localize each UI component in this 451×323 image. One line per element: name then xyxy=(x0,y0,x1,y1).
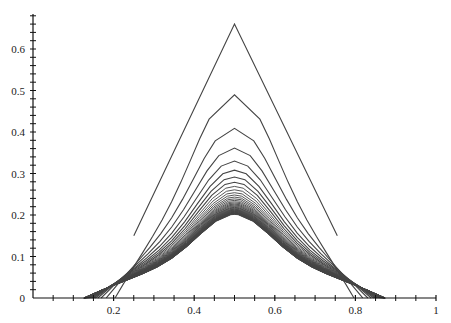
curve-line xyxy=(86,207,384,298)
curve-line xyxy=(86,205,383,298)
curve-line xyxy=(85,211,385,298)
curve-line xyxy=(84,214,385,298)
curve-line xyxy=(84,214,385,298)
curve-line xyxy=(87,202,382,298)
curve-line xyxy=(84,213,385,298)
curve-line xyxy=(84,214,386,298)
curve-line xyxy=(85,209,384,298)
y-tick-label: 0.5 xyxy=(11,85,25,97)
curve-line xyxy=(86,207,384,298)
x-tick-label: 0.2 xyxy=(107,304,121,316)
x-tick-label: 0.8 xyxy=(349,304,363,316)
curve-family xyxy=(84,24,386,298)
curve-line xyxy=(86,206,383,298)
chart: 0.20.40.60.81 00.10.20.30.40.50.6 xyxy=(0,0,451,323)
y-tick-label: 0.4 xyxy=(11,126,25,138)
curve-line xyxy=(84,214,385,298)
curve-line xyxy=(85,209,384,298)
y-tick-label: 0.1 xyxy=(11,251,25,263)
curve-line xyxy=(86,204,382,298)
curve-line xyxy=(92,182,377,298)
x-tick-label: 0.4 xyxy=(187,304,201,316)
curve-line xyxy=(85,210,384,298)
curve-line xyxy=(85,212,385,299)
y-tick-label: 0.6 xyxy=(11,43,25,55)
x-tick-label: 1 xyxy=(433,304,439,316)
curve-line xyxy=(85,210,384,298)
x-tick-label: 0.6 xyxy=(268,304,282,316)
curve-line xyxy=(87,203,383,298)
curve-line xyxy=(85,208,383,298)
curve-line xyxy=(84,214,385,299)
y-tick-label: 0.2 xyxy=(11,209,25,221)
curve-line xyxy=(84,213,385,298)
curve-line xyxy=(87,200,381,298)
y-tick-label: 0 xyxy=(20,292,26,304)
y-ticks: 00.10.20.30.40.50.6 xyxy=(11,16,36,304)
y-tick-label: 0.3 xyxy=(11,168,25,180)
curve-line xyxy=(98,161,372,298)
curve-line xyxy=(84,212,384,298)
curve-line xyxy=(84,212,384,298)
curve-line xyxy=(84,213,385,298)
curve-line xyxy=(85,211,385,298)
